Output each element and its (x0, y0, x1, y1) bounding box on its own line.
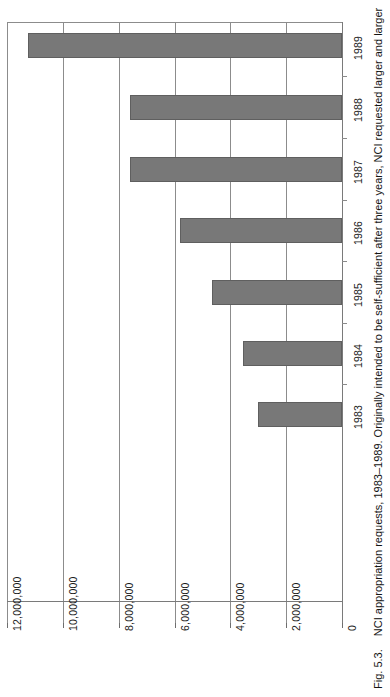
category-tick-mark (342, 323, 347, 324)
value-tick-mark (175, 623, 176, 628)
gridline (7, 22, 8, 623)
value-tick-mark (63, 623, 64, 628)
category-label-1989: 1989 (352, 35, 364, 59)
gridline (63, 22, 64, 623)
figure-caption: Fig. 5.3. NCI appropriation requests, 19… (372, 9, 385, 689)
value-tick-mark (286, 623, 287, 628)
value-tick-label: 12,000,000 (11, 576, 23, 631)
gridline (119, 22, 120, 623)
category-label-1986: 1986 (352, 220, 364, 244)
bar-1984 (243, 341, 342, 366)
figure-container: 02,000,0004,000,0006,000,0008,000,00010,… (0, 0, 390, 697)
figure-number: Fig. 5.3. (372, 649, 384, 689)
value-tick-label: 2,000,000 (290, 582, 302, 631)
bar-1983 (258, 402, 342, 427)
category-tick-mark (342, 200, 347, 201)
category-label-1987: 1987 (352, 159, 364, 183)
value-tick-mark (342, 623, 343, 628)
value-tick-label: 8,000,000 (123, 582, 135, 631)
value-tick-label: 6,000,000 (179, 582, 191, 631)
category-tick-mark (342, 384, 347, 385)
bar-1988 (130, 95, 342, 120)
bar-1987 (130, 157, 342, 182)
value-tick-label: 0 (346, 625, 358, 631)
bar-1985 (212, 280, 342, 305)
category-label-1988: 1988 (352, 97, 364, 121)
value-tick-label: 10,000,000 (67, 576, 79, 631)
chart-plot-area (7, 22, 342, 623)
category-tick-mark (342, 76, 347, 77)
figure-caption-text: NCI appropriation requests, 1983–1989. O… (372, 8, 384, 636)
value-tick-mark (119, 623, 120, 628)
category-tick-mark (342, 138, 347, 139)
value-tick-label: 4,000,000 (234, 582, 246, 631)
bar-1989 (28, 33, 342, 58)
category-label-1984: 1984 (352, 343, 364, 367)
bar-1986 (180, 218, 342, 243)
value-tick-mark (7, 623, 8, 628)
category-label-1985: 1985 (352, 282, 364, 306)
category-tick-mark (342, 261, 347, 262)
category-label-1983: 1983 (352, 404, 364, 428)
value-tick-mark (230, 623, 231, 628)
